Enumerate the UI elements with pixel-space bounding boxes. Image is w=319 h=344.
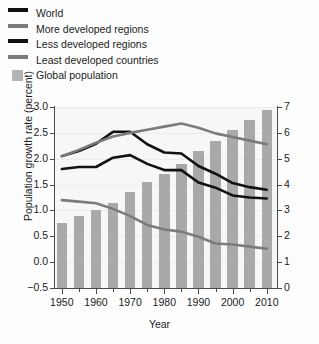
legend-item-least-developed-countries: Least developed countries <box>8 53 308 69</box>
y-axis-right-tick-label: 6 <box>284 127 302 138</box>
y-axis-left-tick-label: 0.5 <box>12 230 48 241</box>
legend-swatch-line <box>8 39 28 50</box>
y-axis-left-tick <box>50 210 54 211</box>
y-axis-left-label: Population growth rate (percent) <box>22 66 34 226</box>
x-axis-minor-tick <box>147 289 148 292</box>
y-axis-right-tick-label: 2 <box>284 230 302 241</box>
x-axis-tick <box>267 289 268 294</box>
legend-swatch-line <box>8 24 28 35</box>
legend-label: World <box>36 8 63 19</box>
x-axis-label: Year <box>0 318 319 330</box>
legend-item-less-developed-regions: Less developed regions <box>8 37 308 53</box>
x-axis-minor-tick <box>113 289 114 292</box>
y-axis-left-tick-label: 0.0 <box>12 256 48 267</box>
x-axis-tick-label: 2010 <box>247 297 287 308</box>
y-axis-left-tick <box>50 133 54 134</box>
y-axis-right-tick <box>278 210 282 211</box>
legend-label: Less developed regions <box>36 39 147 50</box>
y-axis-right-tick <box>278 236 282 237</box>
y-axis-right-tick-label: 1 <box>284 256 302 267</box>
y-axis-left-line <box>54 106 55 289</box>
legend-swatch-mark <box>8 39 28 43</box>
y-axis-left-tick <box>50 288 54 289</box>
x-axis-minor-tick <box>250 289 251 292</box>
y-axis-right-tick <box>278 159 282 160</box>
line-more-developed-regions <box>62 200 267 249</box>
y-axis-right-tick-label: 0 <box>284 282 302 293</box>
legend-swatch-mark <box>8 55 28 59</box>
y-axis-left-tick <box>50 107 54 108</box>
x-axis-tick <box>130 289 131 294</box>
legend-label: Global population <box>36 70 118 81</box>
y-axis-right-tick <box>278 107 282 108</box>
y-axis-left-tick <box>50 159 54 160</box>
legend-swatch-mark <box>8 24 28 28</box>
y-axis-left-tick <box>50 262 54 263</box>
legend-item-global-population: Global population <box>8 68 308 84</box>
x-axis-line <box>54 288 278 289</box>
y-axis-right-tick <box>278 133 282 134</box>
x-axis-tick <box>198 289 199 294</box>
y-axis-left-tick <box>50 185 54 186</box>
legend-item-more-developed-regions: More developed regions <box>8 22 308 38</box>
legend-swatch-mark <box>8 8 28 12</box>
line-less-developed-regions <box>62 132 267 190</box>
legend-label: Least developed countries <box>36 55 159 66</box>
population-growth-chart-figure: WorldMore developed regionsLess develope… <box>0 0 319 344</box>
x-axis-minor-tick <box>216 289 217 292</box>
plot-area <box>55 107 277 288</box>
y-axis-right-tick-label: 5 <box>284 153 302 164</box>
y-axis-right-tick-label: 7 <box>284 101 302 112</box>
x-axis-minor-tick <box>79 289 80 292</box>
y-axis-right-tick-label: 3 <box>284 204 302 215</box>
x-axis-tick <box>233 289 234 294</box>
x-axis-minor-tick <box>181 289 182 292</box>
legend-item-world: World <box>8 6 308 22</box>
x-axis-tick <box>62 289 63 294</box>
y-axis-left-tick-label: −0.5 <box>12 282 48 293</box>
x-axis-tick <box>164 289 165 294</box>
y-axis-right-tick-label: 4 <box>284 179 302 190</box>
y-axis-right-tick <box>278 185 282 186</box>
legend-swatch-line <box>8 8 28 19</box>
line-world <box>62 155 267 198</box>
legend-swatch-line <box>8 55 28 66</box>
legend-label: More developed regions <box>36 24 149 35</box>
y-axis-right-tick <box>278 262 282 263</box>
y-axis-right-tick <box>278 288 282 289</box>
chart-legend: WorldMore developed regionsLess develope… <box>8 6 308 84</box>
x-axis-tick <box>96 289 97 294</box>
line-series-group <box>55 107 277 288</box>
y-axis-left-tick <box>50 236 54 237</box>
